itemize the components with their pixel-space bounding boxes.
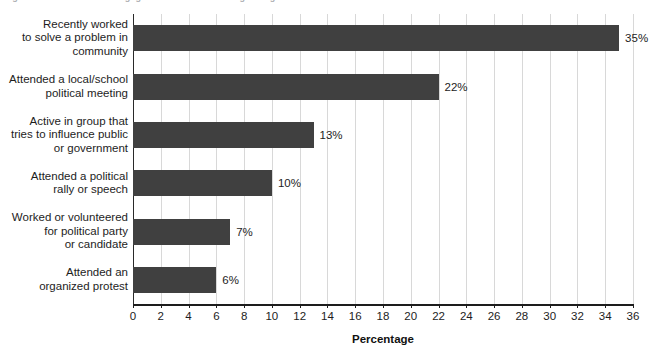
bar: [133, 74, 439, 100]
x-tick-32: [577, 304, 578, 308]
gridline-36: [633, 14, 634, 304]
bar-value-label: 7%: [236, 226, 253, 238]
bar: [133, 122, 314, 148]
category-label-line: political meeting: [0, 87, 128, 101]
x-tick-18: [383, 304, 384, 308]
category-label-line: for political party: [0, 225, 128, 239]
category-axis-labels: Recently workedto solve a problem incomm…: [0, 14, 128, 304]
bar-value-label: 10%: [278, 177, 301, 189]
x-tick-label-22: 22: [432, 310, 445, 322]
category-label: Worked or volunteeredfor political party…: [0, 211, 128, 252]
x-tick-label-14: 14: [321, 310, 334, 322]
x-tick-label-12: 12: [293, 310, 306, 322]
category-label-line: to solve a problem in: [0, 31, 128, 45]
x-tick-label-20: 20: [404, 310, 417, 322]
x-tick-label-2: 2: [158, 310, 164, 322]
category-label-line: Worked or volunteered: [0, 211, 128, 225]
x-tick-8: [244, 304, 245, 308]
bar-row: 6%: [133, 267, 633, 293]
x-tick-2: [161, 304, 162, 308]
x-tick-label-18: 18: [377, 310, 390, 322]
bar-series: 35%22%13%10%7%6%: [133, 14, 633, 304]
bar-row: 22%: [133, 74, 633, 100]
figure-title-text: Figure 12.4 Recent Civic Engagement Acti…: [4, 0, 306, 2]
category-label-line: or candidate: [0, 238, 128, 252]
category-label: Recently workedto solve a problem incomm…: [0, 18, 128, 59]
bar-row: 7%: [133, 219, 633, 245]
x-tick-10: [272, 304, 273, 308]
bar-value-label: 22%: [445, 81, 468, 93]
x-tick-label-10: 10: [265, 310, 278, 322]
x-tick-label-26: 26: [488, 310, 501, 322]
category-label-line: Attended a local/school: [0, 73, 128, 87]
category-label: Active in group thattries to influence p…: [0, 115, 128, 156]
bar: [133, 267, 216, 293]
x-tick-22: [439, 304, 440, 308]
category-label-line: or government: [0, 142, 128, 156]
x-tick-label-24: 24: [460, 310, 473, 322]
x-tick-label-30: 30: [543, 310, 556, 322]
x-tick-26: [494, 304, 495, 308]
category-label-line: community: [0, 45, 128, 59]
x-tick-label-34: 34: [599, 310, 612, 322]
bar-row: 13%: [133, 122, 633, 148]
x-tick-4: [189, 304, 190, 308]
x-tick-label-16: 16: [349, 310, 362, 322]
category-label: Attended a local/schoolpolitical meeting: [0, 73, 128, 100]
bar: [133, 25, 619, 51]
x-tick-12: [300, 304, 301, 308]
x-tick-14: [327, 304, 328, 308]
x-tick-label-36: 36: [627, 310, 640, 322]
x-tick-16: [355, 304, 356, 308]
x-tick-label-4: 4: [185, 310, 191, 322]
x-tick-6: [216, 304, 217, 308]
x-tick-28: [522, 304, 523, 308]
category-label-line: organized protest: [0, 280, 128, 294]
bar-value-label: 35%: [625, 32, 648, 44]
x-tick-label-8: 8: [241, 310, 247, 322]
x-tick-label-28: 28: [515, 310, 528, 322]
figure-title-clipped: Figure 12.4 Recent Civic Engagement Acti…: [0, 0, 651, 9]
x-tick-20: [411, 304, 412, 308]
bar-value-label: 13%: [320, 129, 343, 141]
category-label-line: Active in group that: [0, 115, 128, 129]
bar: [133, 170, 272, 196]
x-tick-0: [133, 304, 134, 308]
bar: [133, 219, 230, 245]
bar-row: 10%: [133, 170, 633, 196]
x-tick-30: [550, 304, 551, 308]
category-label-line: Attended an: [0, 266, 128, 280]
bar-row: 35%: [133, 25, 633, 51]
x-tick-24: [466, 304, 467, 308]
x-tick-label-32: 32: [571, 310, 584, 322]
x-tick-36: [633, 304, 634, 308]
category-label-line: Attended a political: [0, 170, 128, 184]
x-tick-34: [605, 304, 606, 308]
category-label-line: Recently worked: [0, 18, 128, 32]
x-tick-label-0: 0: [130, 310, 136, 322]
category-label-line: rally or speech: [0, 183, 128, 197]
x-axis-title: Percentage: [133, 333, 633, 345]
plot-area: 35%22%13%10%7%6%: [133, 14, 633, 304]
category-label-line: tries to influence public: [0, 128, 128, 142]
category-label: Attended anorganized protest: [0, 266, 128, 293]
bar-chart-figure: Figure 12.4 Recent Civic Engagement Acti…: [0, 0, 651, 355]
bar-value-label: 6%: [222, 274, 239, 286]
x-tick-label-6: 6: [213, 310, 219, 322]
category-label: Attended a politicalrally or speech: [0, 170, 128, 197]
